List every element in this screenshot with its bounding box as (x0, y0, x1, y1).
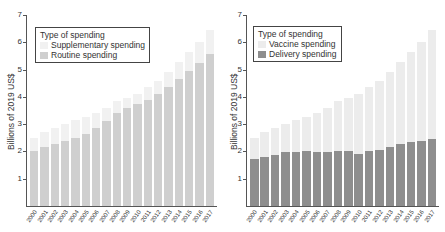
legend-label: Vaccine spending (269, 39, 335, 49)
bar-segment-bottom (365, 151, 374, 206)
bar-segment-bottom (164, 87, 172, 206)
bar-segment-bottom (375, 150, 384, 206)
legend-label: Routine spending (51, 50, 117, 60)
y-tick-mark (23, 124, 26, 125)
bar-segment-bottom (250, 159, 259, 206)
bar-segment-bottom (386, 147, 395, 206)
bar-segment-bottom (354, 154, 363, 206)
bar-segment-bottom (323, 152, 332, 206)
bar-segment-bottom (123, 108, 131, 206)
y-tick-mark (243, 97, 246, 98)
y-tick-label: 2 (12, 146, 22, 155)
bar-segment-bottom (144, 100, 152, 206)
bar-segment-bottom (175, 79, 183, 206)
bar-segment-bottom (195, 63, 203, 206)
bar-segment-bottom (334, 151, 343, 206)
bar-segment-bottom (407, 142, 416, 206)
y-tick-mark (243, 124, 246, 125)
bar-segment-bottom (396, 144, 405, 206)
y-axis-label: Billions of 2019 US$ (6, 73, 16, 150)
bar-segment-bottom (71, 138, 79, 206)
bar-segment-bottom (206, 54, 214, 206)
y-axis-label: Billions of 2019 US$ (229, 73, 239, 150)
bar-segment-bottom (61, 141, 69, 206)
bar-segment-bottom (133, 104, 141, 206)
y-tick-mark (23, 179, 26, 180)
y-tick-mark (23, 151, 26, 152)
bar-segment-bottom (185, 71, 193, 206)
y-tick-mark (23, 42, 26, 43)
legend: Type of spending Supplementary spending … (35, 27, 150, 63)
y-tick-mark (23, 97, 26, 98)
y-tick-label: 1 (12, 174, 22, 183)
y-tick-label: 2 (232, 146, 242, 155)
bar-segment-bottom (51, 144, 59, 206)
legend-swatch-delivery (258, 51, 266, 58)
y-tick-label: 4 (12, 92, 22, 101)
y-tick-mark (243, 70, 246, 71)
legend-label: Delivery spending (269, 49, 337, 59)
legend: Type of spending Vaccine spending Delive… (253, 26, 342, 62)
bar-segment-bottom (292, 152, 301, 206)
legend-swatch-vaccine (258, 41, 266, 48)
y-tick-label: 5 (12, 65, 22, 74)
y-tick-mark (243, 15, 246, 16)
y-tick-label: 3 (232, 119, 242, 128)
bar-segment-bottom (113, 113, 121, 206)
left-chart: Billions of 2019 US$ Type of spending Su… (0, 0, 222, 232)
y-tick-mark (23, 15, 26, 16)
y-tick-label: 7 (232, 10, 242, 19)
bar-segment-bottom (40, 147, 48, 206)
bar-segment-bottom (428, 139, 437, 206)
y-tick-label: 4 (232, 92, 242, 101)
y-tick-label: 5 (232, 65, 242, 74)
bar-segment-bottom (344, 151, 353, 206)
bar-segment-bottom (271, 155, 280, 206)
bar-segment-bottom (30, 151, 38, 206)
bar-segment-bottom (313, 152, 322, 206)
bar-segment-bottom (102, 121, 110, 206)
bar-segment-bottom (417, 141, 426, 206)
bar-segment-bottom (92, 128, 100, 206)
bar-segment-bottom (302, 151, 311, 206)
right-chart: Billions of 2019 US$ Type of spending Va… (223, 0, 445, 232)
bar-segment-bottom (260, 157, 269, 206)
y-tick-label: 3 (12, 119, 22, 128)
bar-segment-bottom (281, 152, 290, 206)
y-tick-mark (243, 151, 246, 152)
y-tick-label: 1 (232, 174, 242, 183)
bar-segment-bottom (154, 94, 162, 206)
y-tick-mark (23, 70, 26, 71)
legend-title: Type of spending (40, 30, 145, 40)
legend-swatch-supplementary (40, 42, 48, 49)
legend-swatch-routine (40, 52, 48, 59)
y-tick-label: 7 (12, 10, 22, 19)
y-tick-mark (243, 42, 246, 43)
y-tick-label: 6 (232, 37, 242, 46)
legend-label: Supplementary spending (51, 40, 145, 50)
bar-segment-bottom (82, 134, 90, 206)
legend-title: Type of spending (258, 29, 337, 39)
y-tick-label: 6 (12, 37, 22, 46)
y-tick-mark (243, 179, 246, 180)
